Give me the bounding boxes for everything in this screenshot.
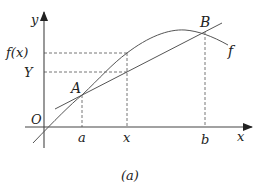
guide-lines bbox=[44, 32, 205, 127]
tick-label-Y: Y bbox=[24, 65, 34, 80]
tick-label-fx: f(x) bbox=[5, 45, 28, 60]
x-axis-label: x bbox=[237, 129, 245, 144]
origin-label: O bbox=[31, 112, 42, 127]
y-axis-label: y bbox=[30, 12, 39, 27]
point-label-A: A bbox=[69, 80, 81, 96]
figure-caption: (a) bbox=[121, 168, 139, 183]
point-label-B: B bbox=[199, 14, 210, 30]
diagram-canvas: y x O a x b f(x) Y A B f (a) bbox=[0, 0, 267, 192]
function-curve-f bbox=[33, 30, 228, 143]
tick-label-a: a bbox=[78, 130, 86, 145]
curve-label-f: f bbox=[227, 43, 236, 59]
tick-label-b: b bbox=[201, 132, 209, 147]
tick-label-x: x bbox=[123, 130, 131, 145]
